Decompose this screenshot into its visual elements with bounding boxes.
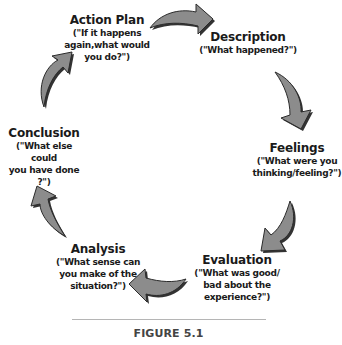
figure-caption: FIGURE 5.1 <box>0 327 337 340</box>
node-description: Description ("What happened?") <box>193 30 303 56</box>
node-analysis: Analysis ("What sense can you make of th… <box>54 242 142 292</box>
node-title: Evaluation <box>192 253 282 267</box>
node-question-line: ("What else could <box>2 140 86 164</box>
node-question-line: again,what would <box>58 39 156 51</box>
node-question-line: ("What happened?") <box>193 44 303 56</box>
caption-divider <box>72 319 266 320</box>
node-question-line: ("If it happens <box>58 27 156 39</box>
node-question-line: you do?") <box>58 51 156 63</box>
arrow-down-left-icon <box>261 201 296 253</box>
node-feelings: Feelings ("What were you thinking/feelin… <box>252 141 342 179</box>
node-question-line: ("What was good/ <box>192 267 282 279</box>
node-question-line: ("What sense can <box>54 256 142 268</box>
node-title: Description <box>193 30 303 44</box>
arrow-up-icon <box>31 186 67 238</box>
node-title: Conclusion <box>2 126 86 140</box>
node-title: Action Plan <box>58 13 156 27</box>
node-question-line: you have done ?") <box>2 164 86 188</box>
node-question-line: situation?") <box>54 280 142 292</box>
node-evaluation: Evaluation ("What was good/ bad about th… <box>192 253 282 303</box>
node-action-plan: Action Plan ("If it happens again,what w… <box>58 13 156 63</box>
node-conclusion: Conclusion ("What else could you have do… <box>2 126 86 188</box>
node-question-line: bad about the <box>192 279 282 291</box>
node-question-line: experience?") <box>192 291 282 303</box>
node-title: Feelings <box>252 141 342 155</box>
node-question-line: you make of the <box>54 268 142 280</box>
node-title: Analysis <box>54 242 142 256</box>
arrow-down-icon <box>275 72 313 131</box>
node-question-line: ("What were you <box>252 155 342 167</box>
node-question-line: thinking/feeling?") <box>252 167 342 179</box>
